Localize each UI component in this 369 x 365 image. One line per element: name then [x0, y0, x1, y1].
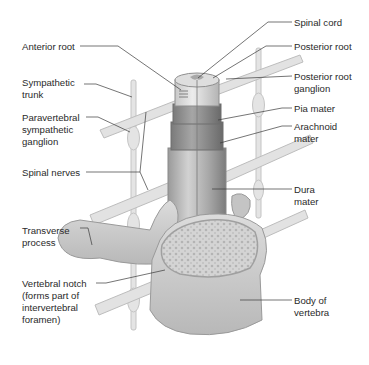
spinal-anatomy-figure: Anterior root Sympathetic trunk Paravert… — [0, 0, 369, 365]
label-spinal-nerves: Spinal nerves — [22, 167, 80, 179]
label-dura-mater: Dura mater — [294, 184, 319, 208]
label-posterior-root-ganglion: Posterior root ganglion — [294, 71, 352, 95]
label-body-of-vertebra: Body of vertebra — [294, 295, 329, 319]
label-arachnoid-mater: Arachnoid mater — [294, 121, 337, 145]
label-pia-mater: Pia mater — [294, 103, 335, 115]
label-posterior-root: Posterior root — [294, 41, 352, 53]
label-sympathetic-trunk: Sympathetic trunk — [22, 77, 75, 101]
label-vertebral-notch: Vertebral notch (forms part of intervert… — [22, 278, 87, 326]
label-anterior-root: Anterior root — [22, 41, 75, 53]
label-spinal-cord: Spinal cord — [294, 17, 342, 29]
label-transverse-process: Transverse process — [22, 225, 70, 249]
label-paravertebral-ganglion: Paravertebral sympathetic ganglion — [22, 112, 80, 148]
